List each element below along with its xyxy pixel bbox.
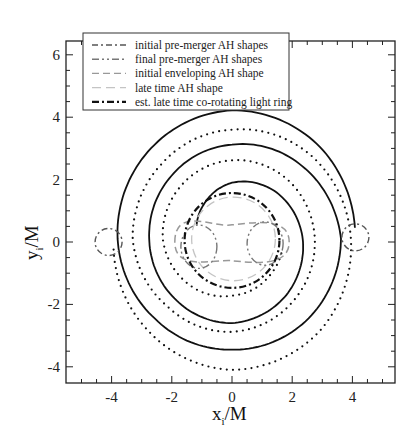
x-tick-label: 4 [349,389,357,405]
y-tick-labels: -4-20246 [48,47,61,375]
legend-label: final pre-merger AH shapes [135,53,263,66]
y-tick-label: 4 [53,109,61,125]
y-tick-label: -4 [48,359,61,375]
x-tick-label: 2 [288,389,296,405]
late-time-ah-shape [192,197,276,281]
x-tick-label: -4 [105,389,118,405]
x-tick-label: -2 [166,389,179,405]
chart: -4-2024 -4-20246 xi/M yi/M initial pre-m… [0,0,416,443]
legend-label: initial pre-merger AH shapes [135,39,268,52]
plot-area [95,110,369,370]
y-tick-label: 0 [53,234,61,250]
legend-label: est. late time co-rotating light ring [135,96,292,109]
legend-label: late time AH shape [135,82,223,95]
legend-label: initial enveloping AH shape [135,67,264,80]
y-tick-label: -2 [48,296,61,312]
initial-pre-merger-ah-shape-1 [342,224,369,251]
x-axis-label: xi/M [212,403,247,427]
y-axis-label: yi/M [21,225,45,260]
legend: initial pre-merger AH shapesfinal pre-me… [83,33,292,110]
y-tick-label: 6 [53,47,61,63]
trajectory-1 [118,110,355,349]
y-tick-label: 2 [53,172,61,188]
light-ring [185,193,280,288]
